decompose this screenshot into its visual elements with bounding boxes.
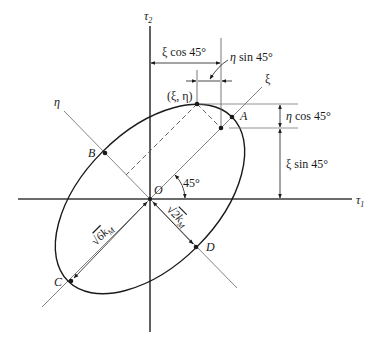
- ellipse-diagram: τ1 τ2 ξ η ξ cos 45° η sin 45°: [0, 0, 382, 350]
- point-D-label: D: [205, 240, 215, 254]
- origin-label: O: [154, 183, 163, 197]
- dimension-xi-sin: ξ sin 45°: [280, 129, 328, 198]
- point-D: D: [194, 240, 215, 254]
- angle-label: 45°: [183, 176, 200, 190]
- dimension-xi-cos: ξ cos 45°: [151, 45, 220, 63]
- point-A-label: A: [239, 109, 248, 123]
- point-B-label: B: [88, 146, 96, 160]
- projection-point: [219, 126, 224, 131]
- eta-axis: η: [54, 95, 237, 288]
- tau1-label: τ1: [356, 193, 364, 209]
- dimension-minor: √2kM: [153, 202, 193, 244]
- xi-eta-label: (ξ, η): [167, 89, 193, 103]
- angle-45: 45°: [175, 175, 200, 198]
- eta-axis-label: η: [54, 95, 60, 109]
- point-B: B: [88, 146, 107, 160]
- dimension-major: √6kM: [74, 202, 147, 278]
- dimension-eta-cos: η cos 45°: [280, 105, 331, 127]
- point-C: C: [54, 275, 73, 289]
- xi-cos-label: ξ cos 45°: [162, 45, 206, 59]
- eta-cos-label: η cos 45°: [286, 109, 331, 123]
- point-C-label: C: [54, 275, 63, 289]
- xi-axis-label: ξ: [265, 72, 271, 86]
- major-semi-label: √6kM: [88, 220, 118, 250]
- tau2-label: τ2: [144, 9, 152, 25]
- eta-sin-label: η sin 45°: [230, 50, 273, 64]
- xi-sin-label: ξ sin 45°: [286, 157, 328, 171]
- projection-dashes: [126, 104, 221, 175]
- point-A: A: [230, 109, 248, 123]
